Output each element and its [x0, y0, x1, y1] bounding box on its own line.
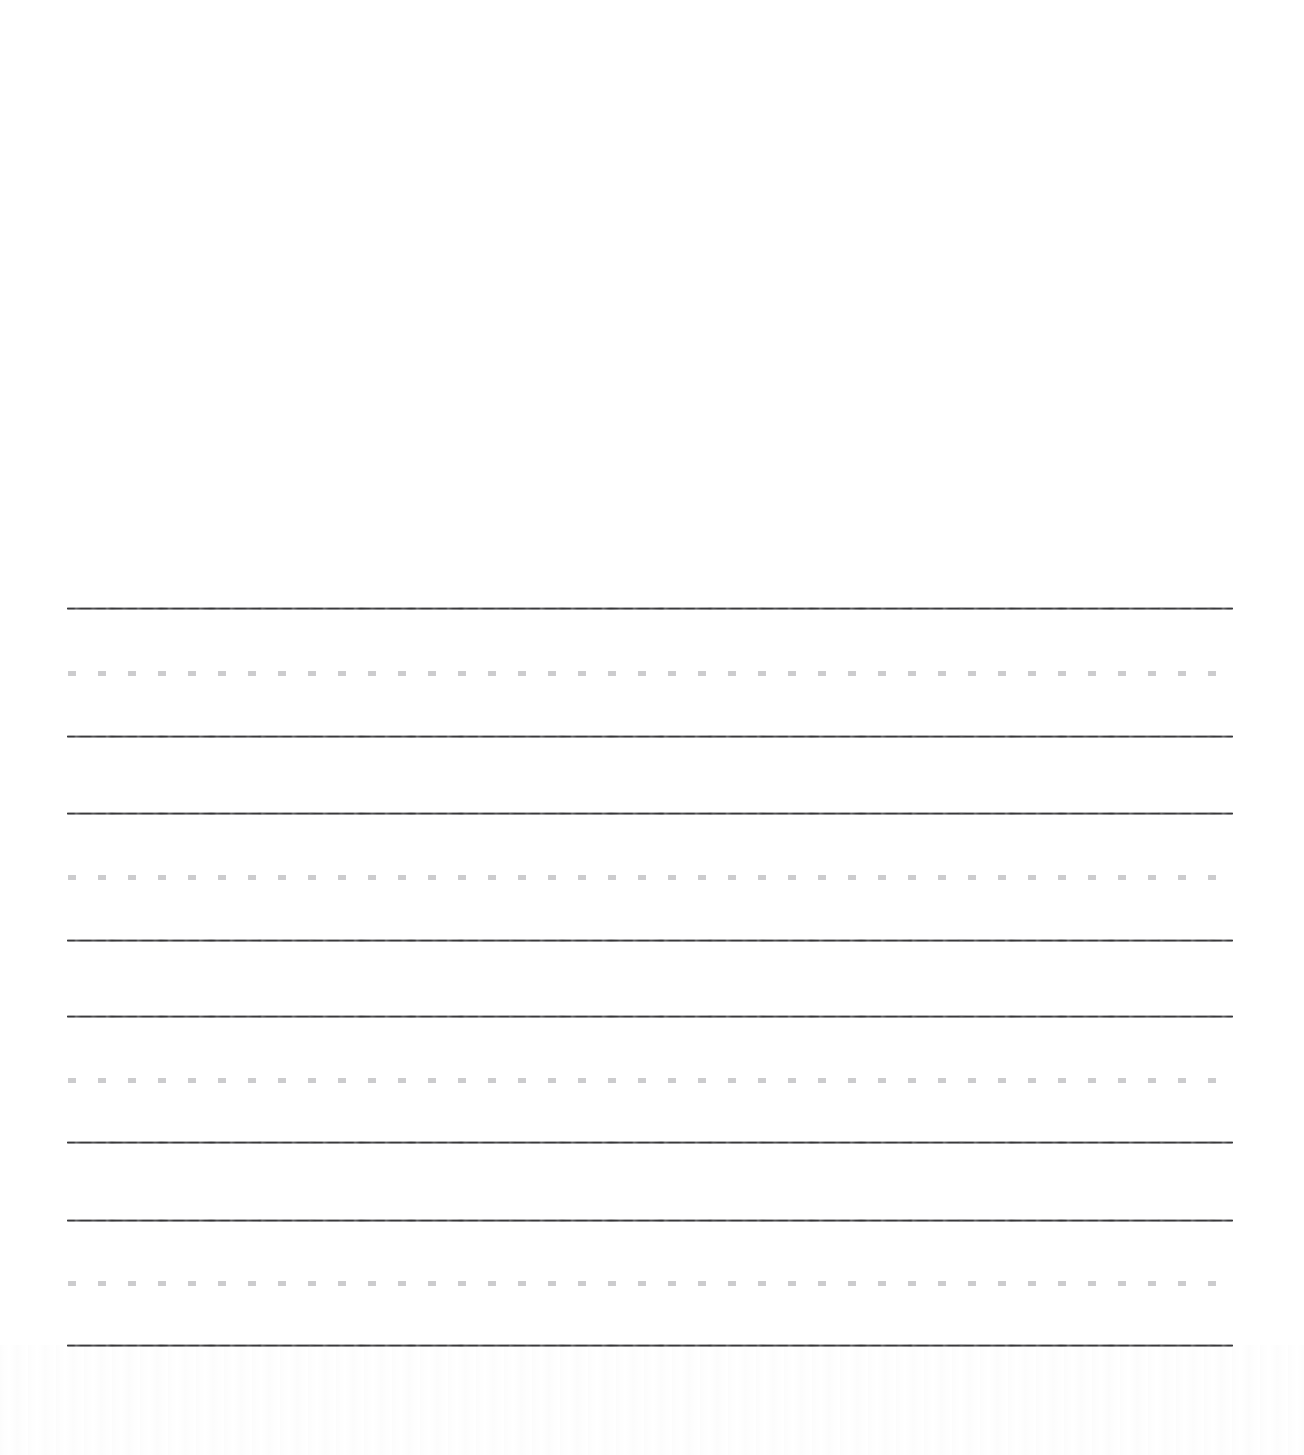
- baseline-rule-3: [67, 1141, 1233, 1144]
- dashed-midline-3: [68, 1078, 1232, 1083]
- dashed-midline-2: [68, 875, 1232, 880]
- baseline-rule-4: [67, 1344, 1233, 1347]
- dashed-midline-4: [68, 1281, 1232, 1286]
- baseline-rule-2: [67, 939, 1233, 942]
- blank-upper-region: [0, 0, 1304, 595]
- baseline-rule-1: [67, 735, 1233, 738]
- dashed-midline-1: [68, 671, 1232, 676]
- top-rule-line-2: [67, 812, 1233, 815]
- scan-texture: [0, 1345, 1304, 1455]
- top-rule-line-4: [67, 1219, 1233, 1222]
- top-rule-line-1: [67, 607, 1233, 610]
- worksheet-page: [0, 0, 1304, 1455]
- top-rule-line-3: [67, 1015, 1233, 1018]
